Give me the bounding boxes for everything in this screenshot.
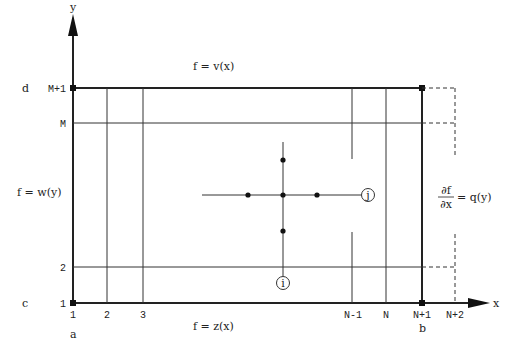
bc-top-label: f = v(x) — [193, 60, 234, 73]
svg-text:1: 1 — [60, 299, 66, 310]
stencil-node-west — [245, 192, 250, 197]
corner-label-c: c — [22, 297, 28, 310]
svg-text:3: 3 — [140, 310, 146, 321]
corner-node-d — [70, 85, 76, 91]
svg-text:N+1: N+1 — [413, 310, 431, 321]
five-point-stencil — [202, 142, 361, 276]
stencil-node-south — [280, 228, 285, 233]
y-axis-label: y — [69, 1, 77, 14]
y-axis: y — [68, 1, 78, 303]
x-axis-label: x — [493, 297, 500, 310]
x-axis: x — [73, 297, 500, 310]
y-axis-arrow-icon — [68, 14, 78, 36]
stencil-node-east — [314, 192, 319, 197]
ghost-column-dashed — [422, 88, 456, 303]
svg-text:M+1: M+1 — [48, 84, 66, 95]
corner-node-c — [70, 300, 76, 306]
svg-text:= q(y): = q(y) — [457, 191, 492, 204]
svg-text:N: N — [383, 310, 389, 321]
corner-node-b — [419, 300, 425, 306]
x-axis-arrow-icon — [468, 298, 490, 308]
svg-text:N-1: N-1 — [344, 310, 362, 321]
svg-text:∂f: ∂f — [441, 184, 452, 197]
svg-text:1: 1 — [70, 310, 76, 321]
svg-text:∂x: ∂x — [440, 198, 453, 211]
node-label-i: i — [277, 277, 290, 291]
bc-right-label: ∂f ∂x = q(y) — [438, 184, 492, 211]
node-label-j: j — [362, 189, 375, 203]
svg-text:i: i — [281, 277, 285, 290]
corner-label-a: a — [70, 328, 77, 341]
stencil-node-center — [280, 192, 285, 197]
x-tick-labels: 1 2 3 N-1 N N+1 N+2 — [70, 310, 464, 321]
svg-text:M: M — [60, 119, 66, 130]
corner-label-d: d — [22, 82, 29, 95]
svg-text:2: 2 — [104, 310, 110, 321]
corner-label-b: b — [419, 322, 426, 335]
bc-left-label: f = w(y) — [17, 186, 62, 199]
svg-text:N+2: N+2 — [446, 310, 464, 321]
finite-difference-grid-diagram: y x — [0, 0, 519, 351]
svg-text:2: 2 — [60, 263, 66, 274]
stencil-node-north — [280, 157, 285, 162]
bc-bottom-label: f = z(x) — [193, 320, 234, 333]
